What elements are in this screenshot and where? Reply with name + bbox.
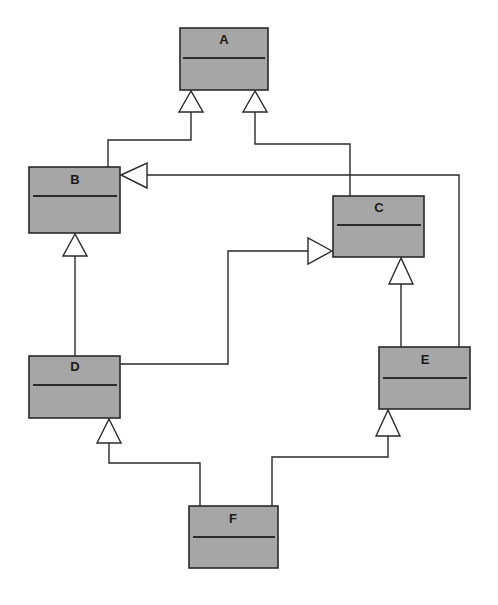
generalization-arrowhead-icon [243, 91, 267, 112]
edge-b-to-a [108, 91, 203, 167]
class-a[interactable]: A [180, 28, 268, 90]
class-e[interactable]: E [379, 347, 470, 409]
edge-f-to-d [97, 419, 200, 506]
edge-d-to-b [63, 234, 87, 356]
generalization-arrowhead-icon [121, 163, 147, 188]
class-name: A [219, 32, 229, 47]
generalization-arrowhead-icon [179, 91, 203, 112]
class-name: D [70, 359, 79, 374]
class-f[interactable]: F [189, 506, 278, 568]
edge-e-to-c [389, 258, 413, 347]
generalization-arrowhead-icon [97, 419, 121, 443]
class-c[interactable]: C [333, 196, 424, 257]
class-name: F [229, 511, 237, 526]
class-name: B [70, 172, 79, 187]
generalization-arrowhead-icon [389, 258, 413, 284]
edge-d-to-c [120, 238, 332, 364]
class-d[interactable]: D [29, 356, 120, 418]
edge-f-to-e [272, 410, 400, 506]
class-diagram: A B C D E F [0, 0, 498, 605]
class-name: C [374, 200, 384, 215]
class-b[interactable]: B [29, 167, 120, 233]
generalization-arrowhead-icon [308, 238, 332, 264]
edge-c-to-a [243, 91, 350, 196]
generalization-arrowhead-icon [376, 410, 400, 436]
generalization-arrowhead-icon [63, 234, 87, 256]
class-name: E [421, 352, 430, 367]
